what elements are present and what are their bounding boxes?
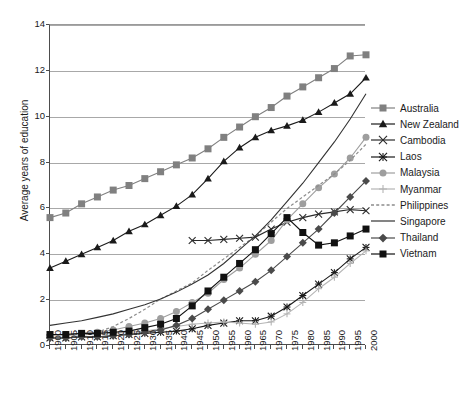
data-point-square xyxy=(268,230,275,237)
x-tick-label: 1900 xyxy=(53,330,63,351)
legend-item-myanmar[interactable]: Myanmar xyxy=(370,181,473,197)
legend-item-cambodia[interactable]: Cambodia xyxy=(370,132,473,148)
series-thailand xyxy=(46,177,370,342)
x-tick-label: 1930 xyxy=(148,330,158,351)
series-line xyxy=(50,78,366,268)
legend-key-circle-icon xyxy=(370,166,396,180)
series-line xyxy=(50,181,366,338)
x-tick-label: 1975 xyxy=(290,330,300,351)
data-point-triangle xyxy=(299,116,307,123)
legend-item-malaysia[interactable]: Malaysia xyxy=(370,165,473,181)
data-point-circle xyxy=(299,200,306,207)
data-point-square xyxy=(236,260,243,267)
legend-item-thailand[interactable]: Thailand xyxy=(370,230,473,246)
data-point-star xyxy=(379,153,387,161)
x-tick-label: 1905 xyxy=(69,330,79,351)
chart-figure: Average years of education 02468101214 1… xyxy=(0,0,473,394)
data-point-square xyxy=(315,74,322,81)
legend-key-star-icon xyxy=(370,150,396,164)
legend-key-square-icon xyxy=(370,101,396,115)
data-point-triangle xyxy=(315,108,323,115)
x-tick-mark xyxy=(65,345,66,349)
x-tick-mark xyxy=(223,345,224,349)
data-point-star xyxy=(299,292,306,299)
legend-label: Vietnam xyxy=(396,248,437,259)
data-point-diamond xyxy=(251,278,259,286)
data-point-square xyxy=(157,321,164,328)
data-point-square xyxy=(347,52,354,59)
x-tick-label: 2000 xyxy=(369,330,379,351)
x-tick-label: 1935 xyxy=(164,330,174,351)
data-point-square xyxy=(62,210,69,217)
data-point-square xyxy=(252,246,259,253)
legend-item-singapore[interactable]: Singapore xyxy=(370,213,473,229)
y-tick-label: 6 xyxy=(1,202,45,212)
legend-key-none-icon xyxy=(370,214,396,228)
x-tick-mark xyxy=(81,345,82,349)
series-new-zealand xyxy=(46,74,370,271)
legend-key-diamond-icon xyxy=(370,231,396,245)
x-tick-label: 1960 xyxy=(243,330,253,351)
data-point-diamond xyxy=(204,305,212,313)
data-point-square xyxy=(331,65,338,72)
data-point-square xyxy=(299,229,306,236)
legend-label: Singapore xyxy=(396,216,446,227)
x-tick-mark xyxy=(128,345,129,349)
x-tick-label: 1970 xyxy=(274,330,284,351)
x-tick-label: 1995 xyxy=(353,330,363,351)
series-layer xyxy=(50,25,366,346)
data-point-triangle xyxy=(109,237,117,244)
legend-key-none-icon xyxy=(370,198,396,212)
legend-item-philippines[interactable]: Philippines xyxy=(370,197,473,213)
data-point-square xyxy=(363,226,370,233)
data-point-triangle xyxy=(78,250,86,257)
data-point-triangle xyxy=(173,202,181,209)
data-point-square xyxy=(141,175,148,182)
legend-item-australia[interactable]: Australia xyxy=(370,100,473,116)
x-tick-mark xyxy=(239,345,240,349)
data-point-square xyxy=(189,302,196,309)
data-point-diamond xyxy=(188,314,196,322)
legend-item-laos[interactable]: Laos xyxy=(370,149,473,165)
legend-label: Philippines xyxy=(396,200,448,211)
data-point-diamond xyxy=(379,233,388,242)
legend-label: Laos xyxy=(396,151,422,162)
data-point-square xyxy=(94,193,101,200)
y-tick-label: 10 xyxy=(1,111,45,121)
data-point-triangle xyxy=(157,211,165,218)
data-point-triangle xyxy=(331,99,339,106)
data-point-triangle xyxy=(125,228,133,235)
series-vietnam xyxy=(47,214,370,338)
data-point-square xyxy=(126,182,133,189)
y-tick-label: 14 xyxy=(1,19,45,29)
legend-label: Malaysia xyxy=(396,167,439,178)
x-tick-label: 1910 xyxy=(85,330,95,351)
data-point-square xyxy=(110,187,117,194)
series-australia xyxy=(47,51,370,221)
data-point-square xyxy=(157,168,164,175)
data-point-star xyxy=(284,304,291,311)
legend-item-new-zealand[interactable]: New Zealand xyxy=(370,116,473,132)
x-tick-mark xyxy=(318,345,319,349)
x-tick-mark xyxy=(144,345,145,349)
data-point-circle xyxy=(380,169,387,176)
x-tick-label: 1990 xyxy=(337,330,347,351)
legend-label: Thailand xyxy=(396,232,438,243)
legend-item-vietnam[interactable]: Vietnam xyxy=(370,246,473,262)
data-point-square xyxy=(284,93,291,100)
x-tick-mark xyxy=(96,345,97,349)
x-tick-mark xyxy=(349,345,350,349)
data-point-plus xyxy=(379,185,387,193)
legend-key-plus-icon xyxy=(370,182,396,196)
data-point-circle xyxy=(173,308,180,315)
legend-key-triangle-icon xyxy=(370,117,396,131)
x-tick-label: 1920 xyxy=(116,330,126,351)
x-tick-mark xyxy=(191,345,192,349)
x-tick-mark xyxy=(160,345,161,349)
data-point-square xyxy=(331,239,338,246)
plot-area xyxy=(49,24,365,345)
legend-key-x-icon xyxy=(370,133,396,147)
data-point-square xyxy=(363,51,370,58)
data-point-triangle xyxy=(62,257,70,264)
data-point-square xyxy=(284,214,291,221)
